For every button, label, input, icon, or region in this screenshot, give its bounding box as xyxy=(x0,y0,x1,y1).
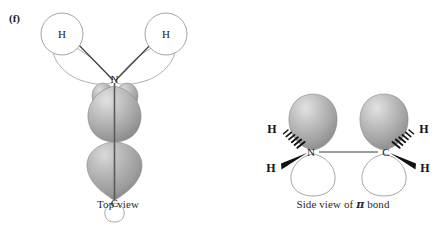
top-view-panel: H H N C xyxy=(41,13,187,222)
side-view-caption-suffix: bond xyxy=(364,198,389,210)
atom-label-h-lower-left: H xyxy=(266,161,276,175)
orbital-lobe-n-upper-gray xyxy=(289,94,337,150)
atom-label-h-left: H xyxy=(58,28,66,40)
side-view-caption-prefix: Side view of xyxy=(296,198,356,210)
atom-label-h-upper-right: H xyxy=(419,122,429,136)
atom-label-h-upper-left: H xyxy=(267,122,277,136)
orbital-lobe-c-lower-white xyxy=(362,154,406,196)
atom-label-h-right: H xyxy=(162,28,170,40)
atom-label-n-topview: N xyxy=(111,73,119,85)
atom-label-c-sideview: C xyxy=(382,146,389,158)
atom-label-h-lower-right: H xyxy=(420,161,430,175)
side-view-caption: Side view of π bond xyxy=(278,198,408,211)
top-view-caption: Top view xyxy=(58,198,178,210)
atom-label-n-sideview: N xyxy=(307,146,315,158)
orbital-diagram-svg: H H N C xyxy=(0,0,448,230)
orbital-diagram-figure: (f) xyxy=(0,0,448,230)
side-view-panel: N H H C H H xyxy=(266,94,430,196)
orbital-lobe-c-upper-gray xyxy=(360,94,408,150)
orbital-lobe-n-lower-white xyxy=(291,154,335,196)
